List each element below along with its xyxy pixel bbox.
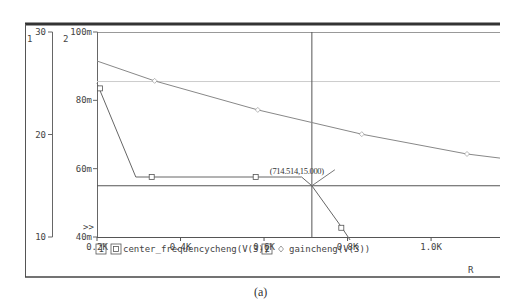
y-axis-2: 100m80m60m40m <box>70 27 97 242</box>
series-1-marker <box>253 175 258 180</box>
y-axis-2-tick-label: 100m <box>70 27 92 37</box>
y-axis-2-tick-label: 80m <box>76 95 92 105</box>
chart-svg: 1 2 302010 100m80m60m40m 0.2K0.4K0.6K0.8… <box>0 0 525 301</box>
y-axis-1-tick-label: 30 <box>35 27 46 37</box>
overflow-marker: >> <box>83 222 94 232</box>
x-axis-tick-label: 1.0K <box>420 242 442 252</box>
series-group <box>97 61 500 240</box>
legend-series-2-name[interactable]: gaincheng(V(3)) <box>289 244 370 254</box>
y-axis-2-tick-label: 40m <box>76 232 92 242</box>
legend-index-2: 2 <box>265 244 270 254</box>
x-axis-tick-label: 0.2K <box>86 242 108 252</box>
series-2-marker <box>465 151 470 156</box>
series-1-marker <box>149 175 154 180</box>
y-axis-1-tick-label: 20 <box>35 130 46 140</box>
series-2-marker <box>255 107 260 112</box>
legend-series-1-name[interactable]: center_frequencycheng(V(3)) <box>123 244 269 254</box>
series-2-line <box>97 61 500 158</box>
y-axis-2-tick-label: 60m <box>76 164 92 174</box>
legend-index-1: 1 <box>99 244 104 254</box>
series-2-marker <box>359 132 364 137</box>
cursor-group: (714.514,15.000) <box>97 32 500 237</box>
cursor-label: (714.514,15.000) <box>270 166 324 176</box>
axis-2-id: 2 <box>63 34 68 44</box>
axis-1-id: 1 <box>27 34 32 44</box>
legend: 1 center_frequencycheng(V(3)) 2 gainchen… <box>96 244 370 254</box>
square-marker-icon <box>114 247 119 252</box>
x-axis-label: R <box>468 265 474 275</box>
series-1-marker <box>97 86 102 91</box>
series-1-marker <box>339 225 344 230</box>
figure-caption: (a) <box>254 285 267 299</box>
series-2-marker <box>152 78 157 83</box>
y-axis-1: 302010 <box>35 27 52 242</box>
y-axis-1-tick-label: 10 <box>35 232 46 242</box>
diamond-marker-icon <box>279 246 284 252</box>
